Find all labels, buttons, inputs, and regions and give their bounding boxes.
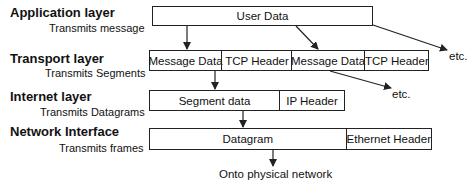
arrow-user-to-segment-2 — [296, 26, 318, 49]
flow-arrows — [0, 0, 470, 189]
arrow-segment2-to-etc — [330, 71, 391, 88]
arrow-user-to-etc — [373, 25, 447, 50]
